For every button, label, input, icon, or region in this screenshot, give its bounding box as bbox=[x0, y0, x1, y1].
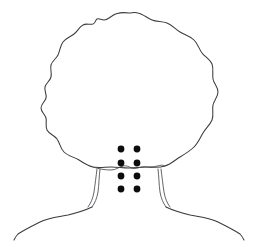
marker-dot bbox=[134, 146, 141, 153]
marker-dot bbox=[118, 186, 125, 193]
marker-dot bbox=[118, 146, 125, 153]
marker-dot bbox=[134, 186, 141, 193]
marker-dot bbox=[134, 173, 141, 180]
figure-container: Back of head, neck and shoulders line dr… bbox=[0, 0, 262, 247]
figure-background bbox=[0, 0, 262, 247]
marker-dot bbox=[134, 160, 141, 167]
marker-dot bbox=[118, 173, 125, 180]
marker-dot bbox=[118, 160, 125, 167]
back-of-head-diagram: Back of head, neck and shoulders line dr… bbox=[0, 0, 262, 247]
